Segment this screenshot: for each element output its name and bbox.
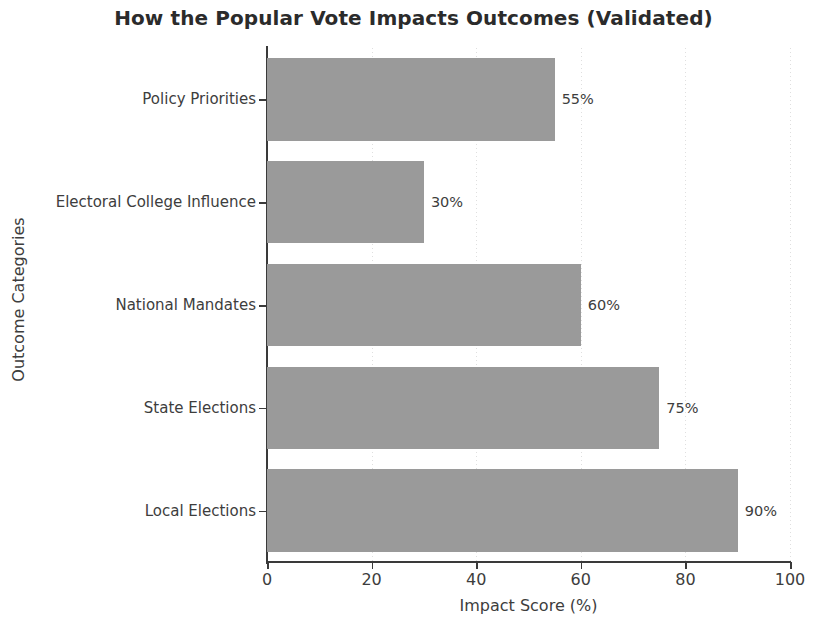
- bar: [267, 264, 581, 346]
- bar: [267, 161, 424, 243]
- bar-value-label: 30%: [431, 194, 463, 210]
- x-tick-label: 20: [361, 570, 381, 589]
- x-axis-title: Impact Score (%): [267, 596, 790, 615]
- x-tick-mark: [790, 562, 792, 569]
- y-tick-label: National Mandates: [0, 296, 256, 314]
- chart-figure: How the Popular Vote Impacts Outcomes (V…: [0, 0, 827, 627]
- bar: [267, 469, 738, 551]
- y-tick-label: Electoral College Influence: [0, 193, 256, 211]
- gridline: [790, 48, 791, 562]
- bar: [267, 58, 555, 140]
- x-tick-label: 60: [571, 570, 591, 589]
- chart-title: How the Popular Vote Impacts Outcomes (V…: [0, 6, 827, 30]
- y-tick-label: Policy Priorities: [0, 90, 256, 108]
- bar-value-label: 60%: [588, 297, 620, 313]
- x-tick-mark: [476, 562, 478, 569]
- x-tick-mark: [372, 562, 374, 569]
- bar: [267, 367, 659, 449]
- y-tick-mark: [259, 99, 266, 101]
- bar-value-label: 75%: [666, 400, 698, 416]
- x-tick-label: 40: [466, 570, 486, 589]
- plot-area: [267, 48, 790, 562]
- x-tick-label: 0: [262, 570, 272, 589]
- x-tick-label: 80: [675, 570, 695, 589]
- x-tick-label: 100: [775, 570, 806, 589]
- bar-value-label: 90%: [745, 503, 777, 519]
- bar-value-label: 55%: [562, 91, 594, 107]
- y-tick-label: State Elections: [0, 399, 256, 417]
- y-tick-label: Local Elections: [0, 502, 256, 520]
- y-tick-mark: [259, 202, 266, 204]
- y-tick-mark: [259, 408, 266, 410]
- x-tick-mark: [581, 562, 583, 569]
- x-tick-mark: [267, 562, 269, 569]
- y-axis-title: Outcome Categories: [9, 200, 28, 400]
- x-tick-mark: [685, 562, 687, 569]
- y-tick-mark: [259, 511, 266, 513]
- y-tick-mark: [259, 305, 266, 307]
